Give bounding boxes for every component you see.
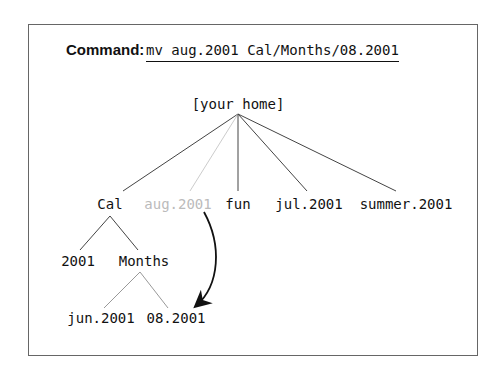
node-root: [your home]	[192, 96, 285, 112]
node-2001: 2001	[61, 253, 95, 269]
node-08-2001: 08.2001	[146, 310, 205, 326]
node-summer-2001: summer.2001	[360, 196, 453, 212]
node-cal: Cal	[97, 196, 122, 212]
node-jun-2001: jun.2001	[67, 310, 134, 326]
node-fun: fun	[225, 196, 250, 212]
node-months: Months	[119, 253, 170, 269]
node-aug-2001: aug.2001	[144, 196, 211, 212]
node-jul-2001: jul.2001	[275, 196, 342, 212]
move-arrow	[196, 212, 216, 306]
